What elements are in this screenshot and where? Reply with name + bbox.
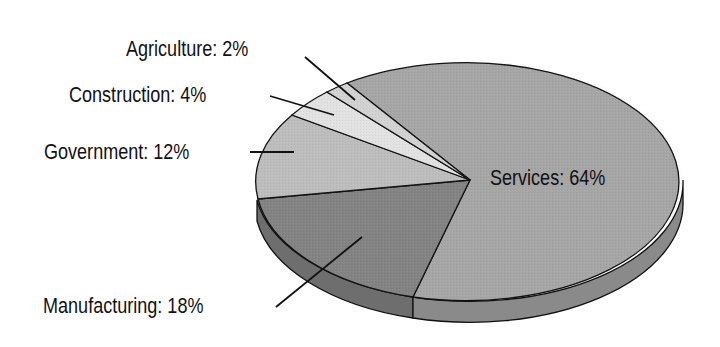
label-construction: Construction: 4% [69, 82, 206, 108]
label-government: Government: 12% [44, 139, 189, 165]
pie-top [256, 61, 683, 301]
label-services: Services: 64% [490, 165, 605, 191]
label-agriculture: Agriculture: 2% [126, 36, 248, 62]
label-manufacturing: Manufacturing: 18% [43, 293, 203, 319]
